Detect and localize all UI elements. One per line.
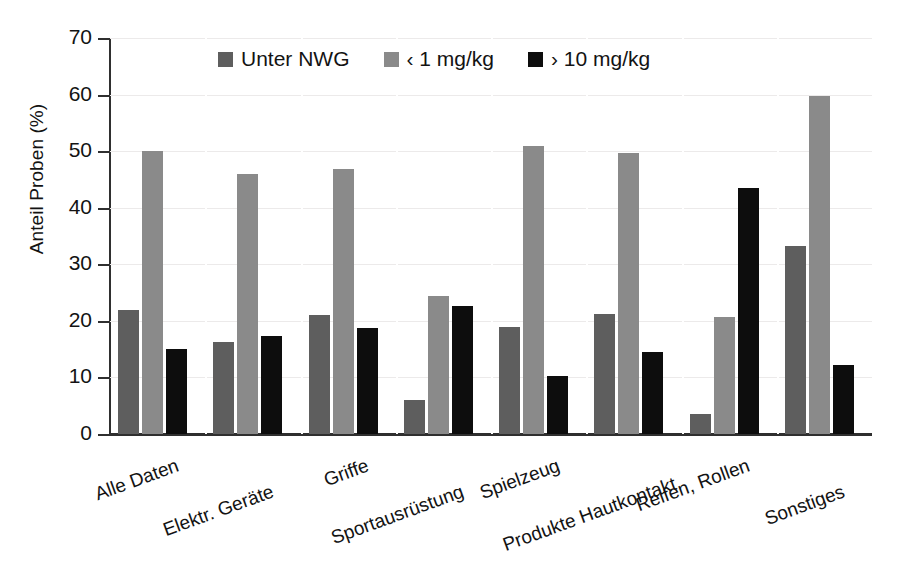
x-axis-tick-labels: Alle DatenElektr. GeräteGriffeSportausrü…	[0, 436, 897, 561]
y-axis-tick-label: 50	[46, 138, 92, 162]
y-axis-tick-label: 40	[46, 195, 92, 219]
x-axis-tick-label: Alle Daten	[24, 455, 182, 530]
y-axis-tick-mark	[98, 321, 110, 323]
y-axis-tick-mark	[98, 151, 110, 153]
category-separator-tick	[777, 38, 779, 434]
y-axis-tick-label: 60	[46, 82, 92, 106]
bar	[642, 352, 663, 434]
legend-label: Unter NWG	[241, 47, 350, 71]
bar	[594, 314, 615, 434]
y-axis-tick-label: 70	[46, 25, 92, 49]
legend-item[interactable]: Unter NWG	[218, 47, 350, 71]
bar	[118, 310, 139, 434]
y-axis-tick-mark	[98, 208, 110, 210]
bar	[142, 151, 163, 434]
category-separator-tick	[491, 38, 493, 434]
bar-chart: Anteil Proben (%) 706050403020100 Unter …	[0, 0, 897, 561]
category-separator-tick	[301, 38, 303, 434]
bar-group	[396, 38, 491, 434]
category-separator-tick	[682, 38, 684, 434]
bar	[309, 315, 330, 434]
bar-group	[777, 38, 872, 434]
legend-item[interactable]: ‹ 1 mg/kg	[384, 47, 495, 71]
y-axis-tick-mark	[98, 38, 110, 40]
bar	[166, 349, 187, 434]
y-axis-tick-label: 30	[46, 251, 92, 275]
bar	[333, 169, 354, 434]
bar	[785, 246, 806, 434]
bar	[618, 153, 639, 434]
y-axis-tick-label: 20	[46, 308, 92, 332]
bar	[738, 188, 759, 434]
bar-group	[586, 38, 681, 434]
legend-swatch-icon	[384, 52, 399, 67]
bar	[499, 327, 520, 434]
bar	[237, 174, 258, 434]
category-separator-tick	[396, 38, 398, 434]
bar	[547, 376, 568, 434]
category-separator-tick	[586, 38, 588, 434]
bar	[833, 365, 854, 434]
legend-label: ‹ 1 mg/kg	[407, 47, 495, 71]
x-axis-tick-label: Sonstiges	[690, 481, 848, 556]
legend-swatch-icon	[218, 52, 233, 67]
y-axis-tick-label: 10	[46, 364, 92, 388]
bar	[261, 336, 282, 434]
bar-group	[205, 38, 300, 434]
legend-label: › 10 mg/kg	[551, 47, 650, 71]
y-axis-tick-mark	[98, 377, 110, 379]
bar	[213, 342, 234, 434]
legend-item[interactable]: › 10 mg/kg	[528, 47, 650, 71]
bar-group	[682, 38, 777, 434]
plot-area	[110, 38, 872, 434]
bar	[523, 146, 544, 435]
y-axis-tick-mark	[98, 434, 110, 436]
bar	[690, 414, 711, 434]
bar	[809, 96, 830, 434]
y-axis-tick-mark	[98, 264, 110, 266]
bar-group	[491, 38, 586, 434]
bar	[714, 317, 735, 434]
bar	[452, 306, 473, 434]
y-axis-tick-mark	[98, 95, 110, 97]
bar	[428, 296, 449, 434]
legend-swatch-icon	[528, 52, 543, 67]
bar-group	[110, 38, 205, 434]
bar	[357, 328, 378, 434]
chart-legend: Unter NWG‹ 1 mg/kg› 10 mg/kg	[218, 47, 650, 71]
bar-group	[301, 38, 396, 434]
category-separator-tick	[205, 38, 207, 434]
bar	[404, 400, 425, 435]
